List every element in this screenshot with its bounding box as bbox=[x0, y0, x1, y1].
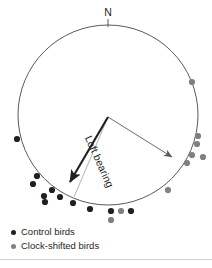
data-point bbox=[108, 208, 114, 214]
data-point bbox=[34, 173, 40, 179]
bottom-divider bbox=[0, 259, 212, 260]
legend-item-clock-shifted-birds: Clock-shifted birds bbox=[8, 239, 208, 253]
data-point bbox=[108, 217, 114, 223]
data-point bbox=[189, 152, 195, 158]
data-point bbox=[128, 208, 134, 214]
data-point bbox=[165, 187, 171, 193]
data-point bbox=[184, 160, 190, 166]
legend-item-label: Control birds bbox=[21, 226, 75, 238]
data-point bbox=[194, 141, 200, 147]
filled-circle-icon bbox=[8, 241, 18, 251]
clock-shifted-birds-points bbox=[108, 79, 206, 223]
data-point bbox=[195, 133, 201, 139]
loft-bearing-label: Loft bearing bbox=[83, 134, 117, 190]
data-point bbox=[200, 154, 206, 160]
data-point bbox=[70, 200, 76, 206]
circular-orientation-figure: N Loft bearing bbox=[0, 0, 212, 268]
clock-shifted-mean-vector-arrow bbox=[108, 117, 172, 157]
data-point bbox=[57, 194, 63, 200]
data-point bbox=[189, 79, 195, 85]
data-point bbox=[41, 193, 47, 199]
data-point bbox=[30, 181, 36, 187]
data-point bbox=[118, 208, 124, 214]
data-point bbox=[49, 187, 55, 193]
legend-item-control-birds: Control birds bbox=[8, 225, 208, 239]
data-point bbox=[87, 206, 93, 212]
data-point bbox=[42, 199, 48, 205]
legend-item-label: Clock-shifted birds bbox=[21, 240, 99, 252]
legend: Control birds Clock-shifted birds bbox=[8, 225, 208, 253]
data-point bbox=[14, 136, 20, 142]
mean-vector-group: Loft bearing bbox=[70, 117, 172, 197]
filled-circle-icon bbox=[8, 227, 18, 237]
north-label: N bbox=[104, 6, 112, 18]
